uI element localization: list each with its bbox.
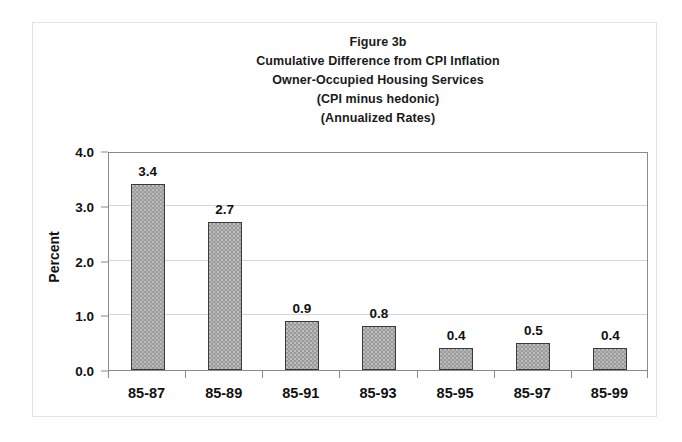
bar-group: 0.8 [340, 153, 417, 370]
bar-group: 0.5 [495, 153, 572, 370]
bar[interactable] [516, 343, 550, 370]
bar-value-label: 0.8 [370, 306, 389, 321]
bar[interactable] [208, 222, 242, 370]
x-axis-tick-mark [262, 371, 263, 378]
y-axis-tick-label: 1.0 [75, 309, 94, 324]
bar[interactable] [439, 348, 473, 370]
bar-group: 0.4 [418, 153, 495, 370]
x-axis-tick-mark [108, 371, 109, 378]
chart-title-line-1: Figure 3b [108, 33, 648, 52]
y-axis-tick-label: 4.0 [75, 145, 94, 160]
y-axis-tick-label: 0.0 [75, 364, 94, 379]
x-axis-tick-label: 85-87 [108, 385, 185, 401]
y-axis-tick-mark [101, 206, 108, 207]
bars-layer: 3.42.70.90.80.40.50.4 [109, 153, 647, 370]
bar-group: 0.9 [263, 153, 340, 370]
x-axis-tick-mark [417, 371, 418, 378]
bar-value-label: 0.4 [601, 328, 620, 343]
x-axis-tick-mark [339, 371, 340, 378]
bar-group: 3.4 [109, 153, 186, 370]
bar-group: 0.4 [572, 153, 649, 370]
y-axis-tick-mark [101, 316, 108, 317]
chart-title-line-5: (Annualized Rates) [108, 109, 648, 128]
bar-value-label: 0.5 [524, 323, 543, 338]
x-axis-tick-mark [185, 371, 186, 378]
y-axis-tick-label: 2.0 [75, 254, 94, 269]
bar[interactable] [131, 184, 165, 370]
bar[interactable] [285, 321, 319, 370]
x-axis-tick-mark [647, 371, 648, 378]
figure-chart-3b: Figure 3b Cumulative Difference from CPI… [0, 0, 682, 442]
y-axis-tick-mark [101, 371, 108, 372]
bar-value-label: 3.4 [138, 164, 157, 179]
bar-value-label: 2.7 [215, 202, 234, 217]
x-axis-tick-mark [571, 371, 572, 378]
chart-title-line-4: (CPI minus hedonic) [108, 90, 648, 109]
x-axis-tick-mark [494, 371, 495, 378]
chart-title-line-3: Owner-Occupied Housing Services [108, 71, 648, 90]
y-axis: 0.01.02.03.04.0 [0, 152, 108, 371]
x-axis-tick-label: 85-95 [417, 385, 494, 401]
bar[interactable] [362, 326, 396, 370]
bar-value-label: 0.4 [447, 328, 466, 343]
y-axis-tick-mark [101, 261, 108, 262]
plot-area: 3.42.70.90.80.40.50.4 [108, 152, 648, 371]
x-axis-tick-label: 85-91 [262, 385, 339, 401]
chart-title: Figure 3b Cumulative Difference from CPI… [108, 33, 648, 128]
chart-title-line-2: Cumulative Difference from CPI Inflation [108, 52, 648, 71]
bar-group: 2.7 [186, 153, 263, 370]
bar[interactable] [593, 348, 627, 370]
x-axis-tick-label: 85-89 [185, 385, 262, 401]
x-axis: 85-8785-8985-9185-9385-9585-9785-99 [108, 371, 648, 413]
y-axis-tick-label: 3.0 [75, 199, 94, 214]
bar-value-label: 0.9 [292, 301, 311, 316]
x-axis-tick-label: 85-93 [339, 385, 416, 401]
x-axis-tick-label: 85-97 [494, 385, 571, 401]
y-axis-tick-mark [101, 152, 108, 153]
x-axis-tick-label: 85-99 [571, 385, 648, 401]
